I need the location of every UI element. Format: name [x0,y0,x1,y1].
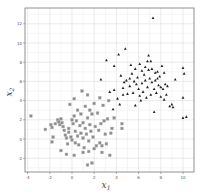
square-marker [94,125,97,128]
triangle-marker [143,73,146,76]
triangle-marker [145,96,148,99]
square-marker [85,133,88,136]
x-tick-label: 0 [71,175,74,180]
y-tick-label: 4 [19,98,22,103]
triangle-marker [185,115,188,118]
triangle-marker [151,67,154,70]
triangle-marker [152,16,155,19]
triangle-marker [182,116,185,119]
triangle-marker [157,84,160,87]
square-marker [83,146,86,149]
square-marker [57,120,60,123]
square-marker [87,150,90,153]
square-marker [93,147,96,150]
square-marker [62,125,65,128]
square-marker [61,121,64,124]
square-marker [73,97,76,100]
square-marker [121,122,124,125]
square-marker [82,121,85,124]
square-marker [121,127,124,130]
square-marker [107,99,110,102]
triangle-marker [126,92,129,95]
square-marker [84,127,87,130]
y-tick-label: 0 [19,137,22,142]
y-tick-label: 12 [17,21,23,26]
triangle-marker [163,98,166,101]
triangle-marker [148,77,151,80]
square-marker [86,164,89,167]
triangle-marker [119,74,122,77]
square-marker [109,132,112,135]
triangle-marker [134,67,137,70]
square-marker [81,90,84,93]
square-marker [50,123,53,126]
square-marker [88,123,91,126]
square-marker [72,122,75,125]
y-axis-label: x2 [4,87,15,96]
square-marker [97,129,100,132]
triangle-marker [118,103,121,106]
square-marker [30,115,33,118]
scatter-chart: -4-20246810 -2024681012 x1 x2 [0,0,202,194]
triangle-marker [132,91,135,94]
square-marker [105,142,108,145]
square-marker [67,127,70,130]
triangle-marker [129,63,132,66]
y-tick-label: -2 [18,156,22,161]
triangle-marker [146,86,149,89]
data-points [30,16,188,166]
triangle-marker [135,83,138,86]
square-marker [111,127,114,130]
square-marker [82,137,85,140]
square-marker [68,103,71,106]
square-marker [88,109,91,112]
triangle-marker [99,78,102,81]
triangle-marker [113,88,116,91]
x-axis-ticks: -4-20246810 [26,172,186,180]
triangle-marker [122,87,125,90]
square-marker [96,112,99,115]
square-marker [66,142,69,145]
triangle-marker [122,93,125,96]
triangle-marker [112,108,115,111]
square-marker [79,113,82,116]
grid-lines [25,8,194,172]
square-marker [60,117,63,120]
x-tick-label: 10 [180,175,186,180]
square-marker [74,141,77,144]
square-marker [78,124,81,127]
square-marker [63,129,66,132]
y-tick-label: 10 [17,41,23,46]
square-marker [44,128,47,131]
triangle-marker [141,82,144,85]
square-marker [87,140,90,143]
triangle-marker [134,104,137,107]
square-marker [73,154,76,157]
triangle-marker [141,69,144,72]
square-marker [82,151,85,154]
triangle-marker [182,66,185,69]
triangle-marker [153,87,156,90]
triangle-marker [124,47,127,50]
square-marker [104,133,107,136]
plot-frame [25,8,194,172]
square-marker [102,104,105,107]
square-marker [54,122,57,125]
x-tick-label: 6 [137,175,140,180]
triangle-marker [155,91,158,94]
triangle-marker [113,64,116,67]
triangle-marker [128,85,131,88]
square-marker [65,153,68,156]
x-tick-label: 4 [115,175,118,180]
triangle-marker [144,79,147,82]
square-marker [86,93,89,96]
y-tick-label: 2 [19,117,22,122]
square-marker [77,143,80,146]
x-tick-label: -2 [48,175,52,180]
square-marker [103,119,106,122]
square-marker [74,130,77,133]
square-marker [99,122,102,125]
x-axis-label: x1 [102,180,111,191]
square-marker [76,109,79,112]
square-marker [101,144,104,147]
